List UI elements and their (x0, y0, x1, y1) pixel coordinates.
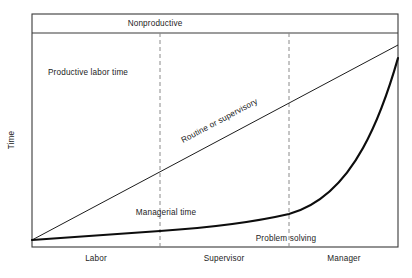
x-tick-label-supervisor: Supervisor (204, 254, 245, 263)
annotation-nonproductive: Nonproductive (128, 19, 183, 28)
chart-figure: Time Nonproductive Productive labor time… (0, 0, 412, 278)
annotation-problem-solving: Problem solving (256, 234, 317, 243)
y-axis-title: Time (7, 130, 16, 149)
annotation-managerial-time: Managerial time (136, 208, 197, 217)
annotation-productive-labor-time: Productive labor time (48, 68, 128, 77)
chart-background (0, 0, 412, 278)
x-tick-label-manager: Manager (327, 254, 360, 263)
x-tick-label-labor: Labor (85, 254, 107, 263)
